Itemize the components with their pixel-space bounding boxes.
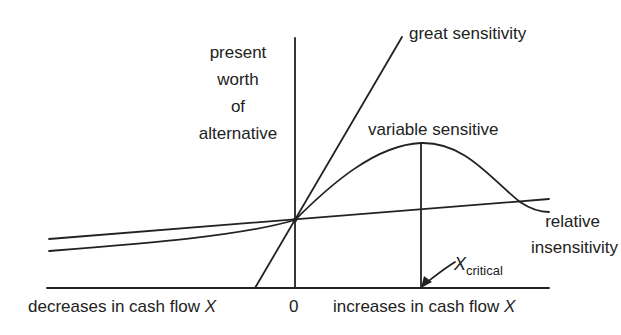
y-axis-label-line: worth bbox=[186, 66, 290, 93]
y-axis-label-line: of bbox=[186, 93, 290, 120]
x-axis-right-label: increases in cash flow X bbox=[333, 298, 515, 315]
x-critical-arrow-shaft bbox=[426, 262, 455, 283]
x-critical-arrowhead bbox=[421, 276, 432, 288]
x-critical-subscript: critical bbox=[466, 263, 503, 278]
sensitivity-diagram bbox=[0, 0, 621, 335]
x-axis-left-label: decreases in cash flow X bbox=[28, 298, 216, 315]
y-axis-label-line: present bbox=[186, 39, 290, 66]
y-axis-label: present worth of alternative bbox=[186, 39, 290, 147]
great-sensitivity-label: great sensitivity bbox=[409, 25, 526, 42]
y-axis-label-line: alternative bbox=[186, 120, 290, 147]
increases-text: increases in cash flow bbox=[333, 297, 499, 316]
origin-label: 0 bbox=[289, 298, 298, 315]
relative-label-line: relative bbox=[478, 209, 618, 235]
x-critical-label: Xcritical bbox=[454, 255, 503, 273]
relative-insensitivity-line bbox=[49, 199, 549, 239]
x-variable: X bbox=[205, 297, 216, 316]
variable-sensitive-label: variable sensitive bbox=[368, 121, 498, 138]
intersection-point bbox=[293, 218, 297, 222]
x-critical-symbol: X bbox=[454, 254, 466, 274]
x-variable: X bbox=[504, 297, 515, 316]
relative-insensitivity-label: relative insensitivity bbox=[478, 209, 618, 261]
decreases-text: decreases in cash flow bbox=[28, 297, 200, 316]
